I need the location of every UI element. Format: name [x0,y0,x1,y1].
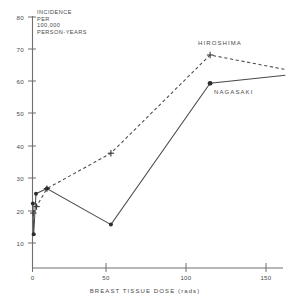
x-tick-label-50: 50 [96,274,116,281]
x-axis-label: BREAST TISSUE DOSE (rads) [0,288,290,294]
y-tick-label-60: 60 [8,78,24,85]
x-tick-label-0: 0 [23,274,43,281]
incidence-dose-chart: INCIDENCE PER 100,000 PERSON-YEARS 80 70… [0,0,290,307]
y-tick-label-20: 20 [8,208,24,215]
nagasaki-markers [31,81,213,236]
x-tick-label-150: 150 [256,274,276,281]
hiroshima-markers [30,52,213,217]
y-tick-label-40: 40 [8,143,24,150]
y-tick-label-30: 30 [8,175,24,182]
axes [33,16,284,268]
series-label-hiroshima: HIROSHIMA [198,40,242,46]
plot-area [0,0,290,307]
y-axis-caption-line-4: PERSON-YEARS [37,29,87,36]
series-label-nagasaki: NAGASAKI [214,89,253,95]
series-nagasaki [31,75,285,236]
y-tick-label-50: 50 [8,110,24,117]
y-tick-label-10: 10 [8,240,24,247]
y-tick-label-80: 80 [8,14,24,21]
series-hiroshima [30,52,285,217]
y-tick-label-70: 70 [8,46,24,53]
x-tick-label-100: 100 [176,274,196,281]
